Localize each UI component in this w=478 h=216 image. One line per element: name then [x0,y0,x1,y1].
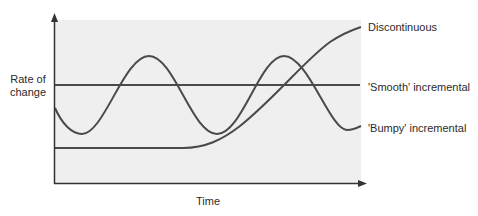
x-axis-label: Time [196,195,220,208]
plot-background [55,20,361,183]
legend-bumpy-incremental: 'Bumpy' incremental [368,122,466,135]
y-axis-label-line2: change [8,86,48,99]
y-axis-label: Rate of change [8,73,48,99]
legend-discontinuous: Discontinuous [368,21,437,34]
y-axis-arrow-icon [51,13,58,22]
x-axis-arrow-icon [358,180,367,187]
legend-smooth-incremental: 'Smooth' incremental [368,81,470,94]
y-axis-label-line1: Rate of [8,73,48,86]
